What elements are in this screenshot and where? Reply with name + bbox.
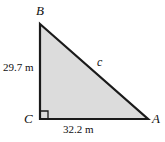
vertex-label-a: A	[152, 112, 160, 125]
vertex-label-c: C	[24, 112, 33, 125]
side-label-horizontal-leg: 32.2 m	[63, 124, 94, 135]
side-label-vertical-leg: 29.7 m	[3, 62, 34, 73]
right-triangle-figure: B C A 29.7 m 32.2 m c	[0, 0, 165, 142]
vertex-label-b: B	[36, 4, 44, 17]
triangle-shape	[40, 24, 148, 119]
side-label-hypotenuse: c	[97, 56, 102, 68]
